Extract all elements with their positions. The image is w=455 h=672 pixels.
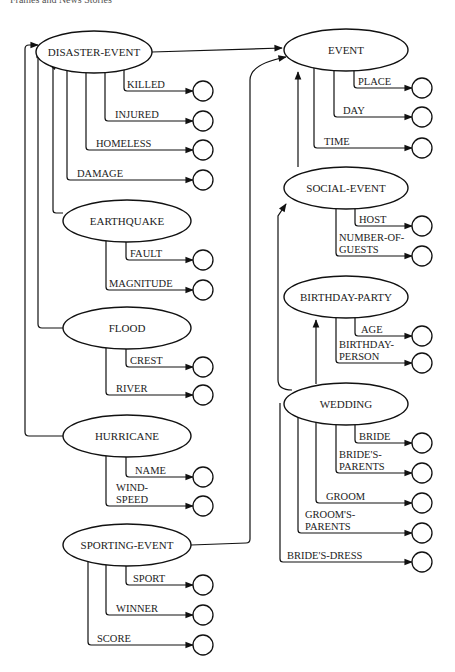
slot-filler-circle: [412, 523, 432, 543]
frame-hierarchy-diagram: KILLEDINJUREDHOMELESSDAMAGEDISASTER-EVEN…: [0, 0, 455, 672]
slot-filler-circle: [193, 111, 213, 131]
frame-event: PLACEDAYTIMEEVENT: [284, 29, 432, 158]
slot-filler-circle: [412, 552, 432, 572]
slot-label: WINNER: [116, 603, 158, 614]
slot-label: GROOM: [326, 491, 366, 502]
slot-label: TIME: [324, 136, 350, 147]
frame-node-disaster-event: DISASTER-EVENT: [36, 31, 152, 73]
frame-sporting-event: SPORTWINNERSCORESPORTING-EVENT: [63, 524, 213, 655]
isa-link-hurricane: [25, 45, 63, 436]
isa-links: [25, 45, 316, 545]
slot-label: NAME: [135, 465, 166, 476]
frames-layer: KILLEDINJUREDHOMELESSDAMAGEDISASTER-EVEN…: [36, 29, 432, 655]
frame-node-birthday-party: BIRTHDAY-PARTY: [284, 276, 408, 318]
slot-killed: KILLED: [124, 69, 213, 101]
frame-label: FLOOD: [109, 322, 146, 334]
frame-label: DISASTER-EVENT: [48, 46, 141, 58]
frame-label: EVENT: [328, 44, 364, 56]
slot-bride-s-dress: BRIDE'S-DRESS: [280, 403, 432, 572]
frame-node-hurricane: HURRICANE: [63, 415, 191, 457]
frame-birthday-party: AGEBIRTHDAY-PERSONBIRTHDAY-PARTY: [284, 276, 432, 373]
frame-label: SOCIAL-EVENT: [306, 182, 386, 194]
slot-filler-circle: [412, 138, 432, 158]
slot-filler-circle: [193, 385, 213, 405]
slot-sport: SPORT: [126, 565, 213, 595]
slot-label: GUESTS: [339, 244, 379, 255]
frame-node-flood: FLOOD: [63, 307, 191, 349]
frame-node-event: EVENT: [284, 29, 408, 71]
slot-filler-circle: [412, 78, 432, 98]
slot-filler-circle: [412, 433, 432, 453]
slot-label: FAULT: [130, 248, 163, 259]
slot-label: PARENTS: [305, 521, 351, 532]
frame-node-sporting-event: SPORTING-EVENT: [63, 524, 191, 566]
frame-node-social-event: SOCIAL-EVENT: [284, 167, 408, 209]
slot-fault: FAULT: [126, 241, 213, 270]
slot-filler-circle: [412, 493, 432, 513]
slot-filler-circle: [412, 246, 432, 266]
slot-filler-circle: [412, 107, 432, 127]
slot-label: BRIDE: [359, 431, 391, 442]
slot-filler-circle: [412, 463, 432, 483]
frame-social-event: HOSTNUMBER-OF-GUESTSSOCIAL-EVENT: [284, 167, 432, 266]
slot-place: PLACE: [354, 70, 432, 98]
frame-label: SPORTING-EVENT: [81, 539, 174, 551]
frame-hurricane: NAMEWIND-SPEEDHURRICANE: [63, 415, 213, 516]
slot-label: PERSON: [339, 351, 380, 362]
slot-filler-circle: [193, 635, 213, 655]
slot-label: SPEED: [116, 494, 149, 505]
slot-label: WIND-: [116, 482, 149, 493]
slot-label: NUMBER-OF-: [339, 232, 405, 243]
frame-earthquake: FAULTMAGNITUDEEARTHQUAKE: [63, 200, 213, 300]
frame-disaster-event: KILLEDINJUREDHOMELESSDAMAGEDISASTER-EVEN…: [36, 31, 213, 190]
slot-label: GROOM'S-: [305, 509, 356, 520]
slot-label: DAY: [343, 105, 365, 116]
slot-label: PLACE: [358, 76, 391, 87]
slot-filler-circle: [193, 81, 213, 101]
frame-node-wedding: WEDDING: [284, 383, 408, 425]
slot-label: MAGNITUDE: [109, 278, 173, 289]
slot-label: PARENTS: [339, 461, 385, 472]
slot-label: SPORT: [133, 573, 166, 584]
slot-label: AGE: [361, 324, 383, 335]
slot-label: RIVER: [116, 383, 148, 394]
slot-link: [280, 403, 412, 562]
slot-label: KILLED: [127, 79, 165, 90]
slot-filler-circle: [193, 605, 213, 625]
slot-filler-circle: [193, 496, 213, 516]
frame-node-earthquake: EARTHQUAKE: [63, 200, 191, 242]
slot-label: BIRTHDAY-: [339, 339, 394, 350]
slot-label: SCORE: [97, 633, 131, 644]
isa-link-disaster-event: [152, 48, 282, 52]
slot-label: HOMELESS: [96, 138, 152, 149]
slot-label: CREST: [130, 355, 163, 366]
slot-filler-circle: [193, 250, 213, 270]
slot-filler-circle: [193, 467, 213, 487]
slot-filler-circle: [412, 216, 432, 236]
slot-label: INJURED: [115, 109, 159, 120]
slot-crest: CREST: [126, 348, 213, 377]
slot-filler-circle: [193, 140, 213, 160]
isa-link-earthquake: [53, 62, 63, 213]
frame-flood: CRESTRIVERFLOOD: [63, 307, 213, 405]
slot-filler-circle: [193, 357, 213, 377]
frame-wedding: BRIDEBRIDE'S-PARENTSGROOMGROOM'S-PARENTS…: [280, 383, 432, 572]
slot-label: DAMAGE: [77, 168, 123, 179]
isa-link-flood: [38, 55, 63, 328]
slot-label: HOST: [359, 214, 387, 225]
slot-filler-circle: [412, 326, 432, 346]
slot-filler-circle: [193, 575, 213, 595]
slot-filler-circle: [412, 353, 432, 373]
slot-label: BRIDE'S-DRESS: [287, 550, 363, 561]
slot-filler-circle: [193, 280, 213, 300]
frame-label: WEDDING: [320, 398, 373, 410]
frame-label: BIRTHDAY-PARTY: [300, 291, 392, 303]
frame-label: HURRICANE: [95, 430, 159, 442]
slot-filler-circle: [193, 170, 213, 190]
frame-label: EARTHQUAKE: [90, 215, 165, 227]
slot-label: BRIDE'S-: [339, 449, 382, 460]
